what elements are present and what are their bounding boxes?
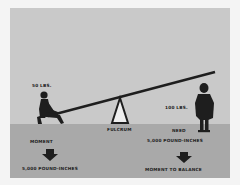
man-figure: [195, 83, 214, 132]
left-result: 5,000 POUND-INCHES: [22, 166, 78, 171]
down-arrow-icon: [42, 149, 58, 161]
right-weight-label: 100 LBS.: [165, 105, 188, 110]
need-amount: 5,000 POUND-INCHES: [147, 138, 203, 143]
fulcrum-label: FULCRUM: [107, 127, 132, 132]
boy-figure: [37, 91, 64, 124]
seesaw-plank: [48, 72, 215, 116]
fulcrum-triangle: [112, 98, 128, 123]
seesaw-diagram: 50 LBS. 100 LBS. FULCRUM MOMENT 5,000 PO…: [10, 8, 230, 178]
moment-heading: MOMENT: [30, 139, 53, 144]
need-label: NEED: [172, 128, 186, 133]
right-result: MOMENT TO BALANCE: [145, 167, 202, 172]
seesaw-art: [10, 8, 230, 178]
left-weight-label: 50 LBS.: [32, 83, 52, 88]
down-arrow-icon: [176, 152, 192, 163]
